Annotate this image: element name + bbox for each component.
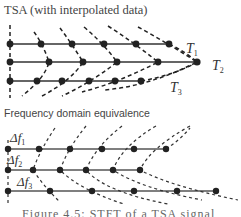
- label-t1: T1: [186, 41, 198, 58]
- tsa-grid: T1 T2 T3: [7, 25, 224, 98]
- freq-curve-3: [86, 126, 168, 204]
- frequency-grid: Δf1 Δf2 Δf3: [5, 126, 238, 204]
- freq-curve-df1-end: [166, 128, 190, 149]
- label-df1: Δf1: [9, 130, 25, 147]
- freq-curve-4: [113, 126, 202, 200]
- label-t2: T2: [212, 58, 224, 75]
- interp-curve-1: [22, 32, 49, 96]
- interp-curve-t3-end: [141, 62, 197, 81]
- label-df2: Δf2: [6, 152, 22, 169]
- label-t3: T3: [170, 80, 182, 97]
- tsa-frequency-diagram: T1 T2 T3 Δf1 Δf2 Δf3: [0, 0, 241, 217]
- figure-caption: Figure 4.5: STFT of a TSA signal: [22, 207, 215, 217]
- label-df3: Δf3: [16, 174, 32, 191]
